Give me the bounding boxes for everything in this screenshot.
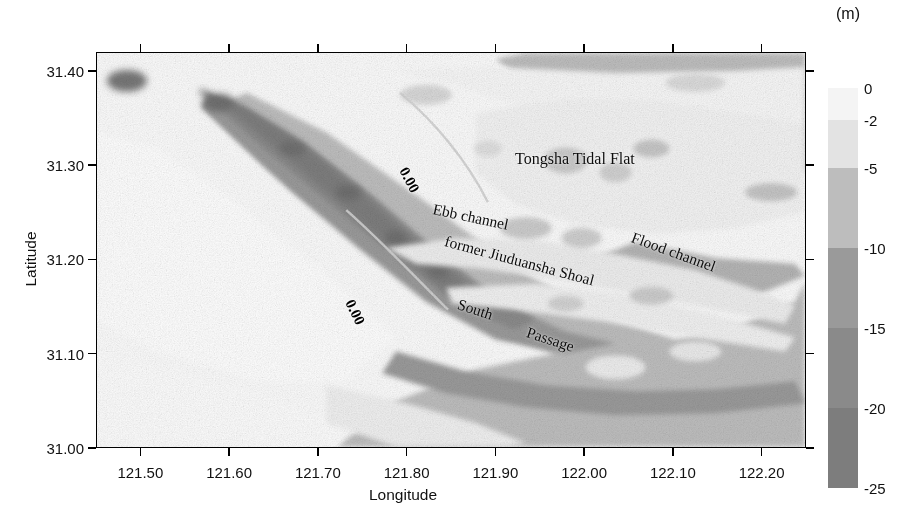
colorbar-tick-label: -5	[864, 160, 877, 177]
y-axis-tick	[88, 259, 96, 260]
x-axis-tick	[583, 448, 584, 456]
y-axis-tick	[88, 164, 96, 165]
y-axis-tick	[806, 447, 814, 448]
colorbar-band	[828, 408, 858, 488]
bathymetry-raster	[97, 53, 805, 447]
x-axis-tick	[761, 44, 762, 52]
x-axis-tick-label: 121.70	[295, 464, 341, 481]
x-axis-tick	[761, 448, 762, 456]
colorbar-tick-label: -25	[864, 480, 886, 497]
y-axis-tick-label: 31.10	[22, 345, 84, 362]
bathymetry-figure: (m)	[0, 0, 902, 520]
x-axis-tick	[495, 44, 496, 52]
y-axis-title: Latitude	[22, 204, 40, 314]
colorbar-band	[828, 248, 858, 328]
colorbar-band	[828, 120, 858, 168]
x-axis-tick	[228, 448, 229, 456]
colorbar-band	[828, 328, 858, 408]
x-axis-tick	[140, 448, 141, 456]
x-axis-tick-label: 122.00	[561, 464, 607, 481]
x-axis-tick	[228, 44, 229, 52]
x-axis-tick	[317, 44, 318, 52]
y-axis-tick	[88, 70, 96, 71]
map-plot-area	[96, 52, 806, 448]
x-axis-tick-label: 121.50	[117, 464, 163, 481]
x-axis-tick	[672, 448, 673, 456]
depth-colorbar: 0-2-5-10-15-20-25	[828, 88, 858, 488]
y-axis-tick	[88, 353, 96, 354]
x-axis-tick	[495, 448, 496, 456]
x-axis-tick	[140, 44, 141, 52]
y-axis-tick-label: 31.30	[22, 157, 84, 174]
colorbar-tick-label: 0	[864, 80, 872, 97]
x-axis-tick	[583, 44, 584, 52]
x-axis-tick	[406, 44, 407, 52]
x-axis-tick-label: 122.20	[739, 464, 785, 481]
x-axis-tick	[406, 448, 407, 456]
x-axis-tick-label: 121.90	[472, 464, 518, 481]
y-axis-tick	[806, 353, 814, 354]
colorbar-tick-label: -10	[864, 240, 886, 257]
y-axis-tick	[88, 447, 96, 448]
colorbar-tick-label: -20	[864, 400, 886, 417]
x-axis-tick-label: 121.80	[384, 464, 430, 481]
y-axis-tick	[806, 259, 814, 260]
x-axis-tick	[317, 448, 318, 456]
colorbar-tick-label: -15	[864, 320, 886, 337]
y-axis-tick	[806, 70, 814, 71]
colorbar-tick-label: -2	[864, 112, 877, 129]
x-axis-tick	[672, 44, 673, 52]
y-axis-tick-label: 31.40	[22, 62, 84, 79]
x-axis-title: Longitude	[0, 486, 806, 504]
x-axis-tick-label: 121.60	[206, 464, 252, 481]
colorbar-unit-label: (m)	[820, 5, 876, 23]
colorbar-band	[828, 168, 858, 248]
y-axis-tick	[806, 164, 814, 165]
y-axis-tick-label: 31.00	[22, 440, 84, 457]
x-axis-tick-label: 122.10	[650, 464, 696, 481]
colorbar-band	[828, 88, 858, 120]
